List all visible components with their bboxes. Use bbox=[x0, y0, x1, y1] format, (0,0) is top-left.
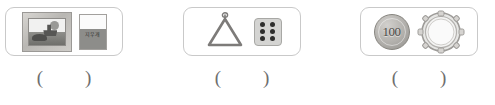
item-group-2: ( ) bbox=[178, 0, 338, 105]
item-group-1: 지우개 ( ) bbox=[0, 0, 160, 105]
cup-icon: 지우개 bbox=[79, 14, 107, 50]
die-pip bbox=[270, 22, 275, 27]
die-pip bbox=[260, 36, 265, 41]
object-panel-1: 지우개 bbox=[5, 7, 123, 56]
framed-picture-icon bbox=[22, 12, 72, 52]
picture-canvas bbox=[28, 18, 66, 46]
paren-close: ) bbox=[440, 68, 446, 87]
answer-blank-3[interactable]: ( ) bbox=[360, 62, 478, 92]
triangle-instrument-icon bbox=[203, 12, 247, 52]
paren-close: ) bbox=[85, 68, 91, 87]
die-pip bbox=[270, 36, 275, 41]
coin-ring bbox=[378, 18, 406, 46]
object-panel-3: 100 bbox=[360, 7, 478, 56]
die-pip bbox=[260, 29, 265, 34]
worksheet: 지우개 ( ) ( ) bbox=[0, 0, 495, 105]
paren-open: ( bbox=[37, 68, 43, 87]
item-group-3: 100 ( ) bbox=[355, 0, 495, 105]
die-pip bbox=[260, 22, 265, 27]
answer-blank-1[interactable]: ( ) bbox=[5, 62, 123, 92]
cup-label: 지우개 bbox=[80, 30, 106, 37]
picture-sky bbox=[29, 19, 65, 33]
object-panel-2 bbox=[183, 7, 301, 56]
die-icon bbox=[254, 18, 282, 46]
answer-blank-2[interactable]: ( ) bbox=[183, 62, 301, 92]
paren-open: ( bbox=[392, 68, 398, 87]
coin-icon: 100 bbox=[374, 14, 410, 50]
paren-close: ) bbox=[263, 68, 269, 87]
die-pip bbox=[270, 29, 275, 34]
paren-open: ( bbox=[215, 68, 221, 87]
drum-icon bbox=[417, 10, 465, 54]
picture-shrub bbox=[32, 34, 47, 41]
